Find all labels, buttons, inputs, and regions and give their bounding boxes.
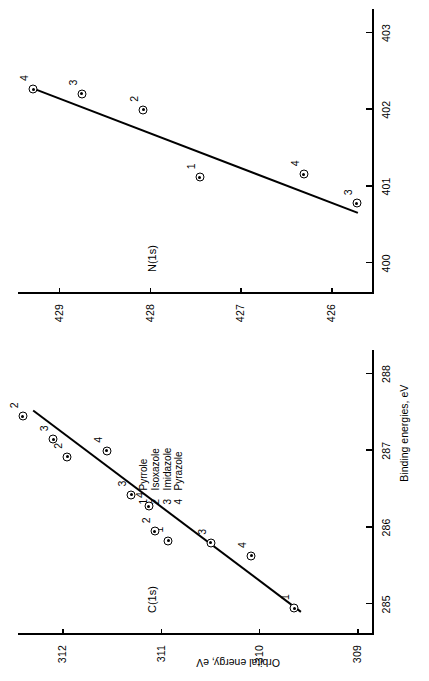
data-point (299, 170, 308, 179)
y-tick (161, 629, 162, 635)
legend-item: 3 Imidazole (162, 448, 174, 505)
x-tick (366, 449, 372, 450)
x-axis-title: Binding energies, eV (398, 385, 410, 482)
legend-label: Isoxazole (150, 448, 162, 490)
data-point-label: 4 (289, 160, 301, 166)
data-point (195, 173, 204, 182)
figure-stage: C(1s) Orbital energy, eV Binding energie… (0, 0, 429, 681)
regression-line (32, 88, 358, 214)
y-tick-label: 427 (234, 304, 246, 340)
y-tick-label: 429 (53, 304, 65, 340)
data-point (49, 435, 58, 444)
y-tick-label: 428 (144, 304, 156, 340)
data-point (18, 412, 27, 421)
legend-key: 4 (173, 497, 185, 504)
data-point-label: 3 (196, 529, 208, 535)
data-point-label: 4 (18, 75, 30, 81)
x-tick (366, 373, 372, 374)
figure-canvas: C(1s) Orbital energy, eV Binding energie… (0, 0, 429, 681)
x-tick-label: 285 (380, 595, 392, 613)
legend-item: 4 Pyrazole (173, 448, 185, 505)
data-point (102, 446, 111, 455)
x-tick (366, 603, 372, 604)
data-point-label: 4 (236, 542, 248, 548)
x-tick (366, 108, 372, 109)
x-tick-label: 287 (380, 442, 392, 460)
y-tick (150, 288, 151, 294)
data-point (206, 538, 215, 547)
data-point-label: 3 (67, 80, 79, 86)
data-point (144, 502, 153, 511)
panel-n1s-x-axis (372, 9, 374, 294)
y-tick (62, 629, 63, 635)
legend-label: Pyrrole (138, 459, 150, 491)
data-point-label: 3 (116, 481, 128, 487)
data-point (164, 536, 173, 545)
panel-c1s-y-axis (18, 633, 373, 635)
x-tick (366, 32, 372, 33)
panel-n1s-y-axis (18, 292, 373, 294)
data-point-label: 1 (279, 594, 291, 600)
y-tick (59, 288, 60, 294)
data-point (127, 490, 136, 499)
y-tick-label: 311 (155, 645, 167, 681)
x-tick-label: 402 (380, 101, 392, 119)
data-point-label: 2 (140, 517, 152, 523)
panel-n1s: N(1s) 400401402403426427428429341234 (0, 0, 429, 340)
y-tick-label: 309 (351, 645, 363, 681)
data-point (77, 89, 86, 98)
data-point-label: 4 (92, 437, 104, 443)
y-tick (259, 629, 260, 635)
x-tick-label: 288 (380, 365, 392, 383)
y-tick (331, 288, 332, 294)
legend-label: Pyrazole (173, 451, 185, 490)
data-point-label: 2 (8, 402, 20, 408)
legend-item: 2 Isoxazole (150, 448, 162, 505)
x-tick (366, 262, 372, 263)
data-point (29, 85, 38, 94)
data-point-label: 2 (128, 96, 140, 102)
data-point (352, 199, 361, 208)
y-tick-label: 310 (253, 645, 265, 681)
data-point (139, 105, 148, 114)
x-tick (366, 185, 372, 186)
x-tick-label: 403 (380, 24, 392, 42)
y-tick (357, 629, 358, 635)
panel-c1s-x-axis (372, 350, 374, 635)
data-point (247, 551, 256, 560)
data-point-label: 1 (185, 163, 197, 169)
x-tick-label: 400 (380, 254, 392, 272)
data-point-label: 3 (342, 190, 354, 196)
x-tick-label: 401 (380, 177, 392, 195)
legend-label: Imidazole (162, 448, 174, 491)
x-tick-label: 286 (380, 518, 392, 536)
data-point-label: 4 (134, 492, 146, 498)
data-point (63, 452, 72, 461)
regression-line (33, 410, 301, 612)
data-point-label: 2 (52, 443, 64, 449)
panel-c1s: C(1s) Orbital energy, eV Binding energie… (0, 341, 429, 681)
y-tick-label: 426 (325, 304, 337, 340)
panel-c1s-title: C(1s) (146, 586, 158, 613)
x-tick (366, 526, 372, 527)
y-axis-title: Orbital energy, eV (196, 657, 280, 669)
data-point (150, 527, 159, 536)
y-tick-label: 312 (56, 645, 68, 681)
panel-n1s-title: N(1s) (146, 245, 158, 272)
legend-key: 3 (162, 497, 174, 504)
data-point (290, 604, 299, 613)
data-point-label: 3 (38, 425, 50, 431)
y-tick (240, 288, 241, 294)
